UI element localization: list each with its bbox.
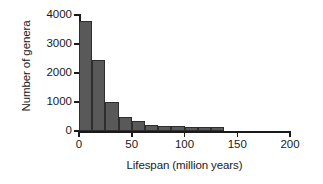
histogram-bar — [158, 126, 171, 131]
histogram-bar — [92, 60, 105, 131]
x-axis-tick-label: 50 — [112, 138, 152, 150]
histogram-bar — [145, 125, 158, 131]
y-axis-tick-label: 2000 — [34, 67, 72, 79]
x-axis-tick — [184, 132, 186, 137]
x-axis-tick — [289, 132, 291, 137]
histogram-bar — [171, 126, 184, 131]
y-axis-tick-label: 4000 — [34, 9, 72, 21]
y-axis-tick — [74, 14, 79, 16]
y-axis-tick-label: 0 — [34, 125, 72, 137]
histogram-bar — [132, 121, 145, 131]
x-axis-tick-label: 100 — [165, 138, 205, 150]
x-axis-tick — [78, 132, 80, 137]
histogram-bar — [105, 102, 118, 131]
y-axis-tick — [74, 43, 79, 45]
histogram-bar — [119, 117, 132, 132]
histogram-bar — [185, 127, 198, 131]
x-axis-title: Lifespan (million years) — [79, 159, 290, 171]
y-axis-tick-label: 1000 — [34, 96, 72, 108]
y-axis-tick — [74, 101, 79, 103]
histogram-figure: Number of genera 01000200030004000 Lifes… — [0, 0, 323, 184]
y-axis-tick-label: 3000 — [34, 38, 72, 50]
x-axis-tick — [237, 132, 239, 137]
plot-area — [79, 15, 290, 131]
y-axis-tick — [74, 72, 79, 74]
histogram-bar — [79, 21, 92, 131]
histogram-bar — [211, 127, 224, 131]
x-axis-tick-label: 150 — [217, 138, 257, 150]
histogram-bar — [198, 127, 211, 131]
x-axis-tick-label: 0 — [59, 138, 99, 150]
x-axis-tick — [131, 132, 133, 137]
y-axis-tick-labels: 01000200030004000 — [32, 0, 72, 184]
x-axis-tick-label: 200 — [270, 138, 310, 150]
